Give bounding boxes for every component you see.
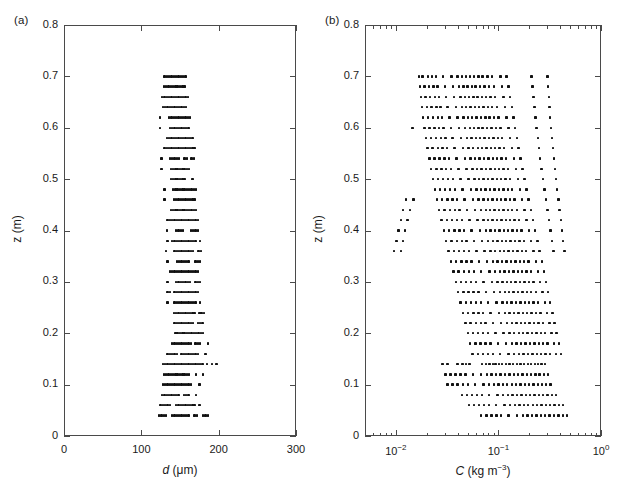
data-point [522,353,524,355]
data-point [515,342,517,344]
y-tick-label: 0.1 [22,377,58,389]
data-point [479,85,481,87]
data-point [471,168,473,170]
data-point [486,75,488,77]
data-point [512,291,514,293]
data-point [519,260,521,262]
y-tick-mark [64,76,70,77]
x-minor-tick-mark-top [458,25,459,29]
data-point [549,383,551,385]
x-tick-mark-top [141,25,142,31]
data-point [460,281,462,283]
data-point [451,383,453,385]
y-tick-mark [365,179,371,180]
data-point [522,312,524,314]
data-point [183,178,185,180]
data-point [525,188,527,190]
x-tick-label: 200 [194,443,244,455]
data-point [526,291,528,293]
y-tick-mark [64,436,70,437]
y-tick-mark [365,231,371,232]
data-point [468,363,470,365]
panel-b: (b) z (m) C (kg m−3) 00.10.20.30.40.50.6… [311,0,622,500]
data-point [508,312,510,314]
x-minor-tick-mark [591,433,592,437]
y-tick-mark [64,25,70,26]
data-point [493,116,495,118]
data-point [505,363,507,365]
data-point [491,281,493,283]
y-tick-mark [64,179,70,180]
x-minor-tick-mark [483,433,484,437]
x-minor-tick-mark-top [494,25,495,29]
data-point [508,270,510,272]
x-tick-label: 100 [576,443,622,457]
data-point [496,198,498,200]
data-point [450,127,452,129]
data-point [540,404,542,406]
data-point [473,240,475,242]
data-point [483,85,485,87]
y-tick-mark [64,231,70,232]
data-point [191,178,193,180]
x-minor-tick-mark [386,433,387,437]
data-point [522,414,524,416]
data-point [496,178,498,180]
x-minor-tick-mark-top [380,25,381,29]
data-point [485,209,487,211]
data-point [469,127,471,129]
data-point [428,85,430,87]
data-point [530,270,532,272]
y-tick-mark-right [595,282,601,283]
data-point [503,229,505,231]
data-point [543,270,545,272]
data-point [532,281,534,283]
data-point [531,85,533,87]
x-minor-tick-mark [488,433,489,437]
data-point [513,198,515,200]
data-point [461,75,463,77]
data-point [444,373,446,375]
y-tick-mark [365,76,371,77]
x-minor-tick-mark [380,433,381,437]
data-point [487,240,489,242]
data-point [536,240,538,242]
data-point [480,116,482,118]
data-point [198,383,200,385]
data-point [489,342,491,344]
data-point [486,127,488,129]
data-point [428,157,430,159]
data-point [199,342,201,344]
data-point [481,75,483,77]
x-minor-tick-mark-top [578,25,579,29]
data-point [471,85,473,87]
data-point [502,209,504,211]
data-point [193,157,195,159]
y-tick-mark-right [595,333,601,334]
data-point [433,157,435,159]
x-tick-label: 100 [116,443,166,455]
data-point [468,96,470,98]
data-point [444,85,446,87]
data-point [166,301,168,303]
x-minor-tick-mark [529,433,530,437]
data-point [429,96,431,98]
data-point [159,116,161,118]
data-point [395,240,397,242]
data-point [510,260,512,262]
data-point [460,260,462,262]
data-point [197,229,199,231]
data-point [509,198,511,200]
data-point [550,127,552,129]
data-point [481,96,483,98]
data-point [514,127,516,129]
data-point [546,312,548,314]
data-point [516,137,518,139]
y-tick-label: 0.4 [323,223,359,235]
data-point [499,270,501,272]
data-point [501,301,503,303]
data-point [477,127,479,129]
x-minor-tick-mark-top [386,25,387,29]
data-point [432,116,434,118]
data-point [484,116,486,118]
